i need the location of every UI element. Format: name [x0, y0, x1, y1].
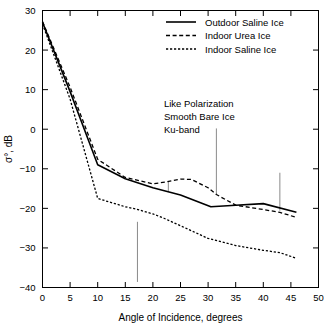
y-axis-title: σ°, dB: [3, 135, 14, 163]
y-tick-label: −10: [19, 163, 35, 174]
x-tick-label: 0: [40, 292, 45, 303]
plot-border: [43, 11, 319, 288]
legend-label: Indoor Saline Ice: [205, 44, 276, 55]
x-tick-label: 15: [120, 292, 131, 303]
chart-figure: 05101520253035404550 −40−30−20−100102030…: [0, 0, 328, 329]
chart-legend: Outdoor Saline IceIndoor Urea IceIndoor …: [166, 17, 284, 55]
x-tick-label: 35: [230, 292, 241, 303]
y-tick-label: 20: [25, 45, 36, 56]
data-series: [43, 22, 297, 259]
y-tick-label: 10: [25, 84, 36, 95]
x-axis-tick-labels: 05101520253035404550: [40, 292, 324, 303]
legend-label: Outdoor Saline Ice: [205, 17, 284, 28]
y-tick-label: −30: [19, 242, 35, 253]
y-tick-label: 0: [30, 124, 35, 135]
y-tick-label: −40: [19, 282, 35, 293]
x-tick-label: 45: [286, 292, 297, 303]
x-tick-label: 5: [67, 292, 72, 303]
plot-frame: [43, 11, 319, 288]
x-tick-label: 10: [92, 292, 103, 303]
legend-label: Indoor Urea Ice: [205, 30, 270, 41]
x-axis-ticks: [43, 11, 319, 288]
annotation-text: Smooth Bare Ice: [164, 111, 235, 122]
x-tick-label: 25: [175, 292, 186, 303]
annotation-text: Ku-band: [164, 124, 200, 135]
x-tick-label: 40: [258, 292, 269, 303]
y-axis-ticks: [43, 11, 319, 288]
y-axis-tick-labels: −40−30−20−100102030: [19, 5, 35, 293]
x-tick-label: 50: [313, 292, 324, 303]
annotation-text: Like Polarization: [164, 98, 234, 109]
x-axis-title: Angle of Incidence, degrees: [119, 312, 243, 323]
y-tick-label: −20: [19, 203, 35, 214]
sigma-vs-angle-line-chart: 05101520253035404550 −40−30−20−100102030…: [0, 0, 328, 329]
x-tick-label: 30: [203, 292, 214, 303]
series-dotted: [43, 24, 297, 258]
y-tick-label: 30: [25, 5, 36, 16]
chart-annotations: Like PolarizationSmooth Bare IceKu-band: [164, 98, 235, 135]
x-tick-label: 20: [148, 292, 159, 303]
